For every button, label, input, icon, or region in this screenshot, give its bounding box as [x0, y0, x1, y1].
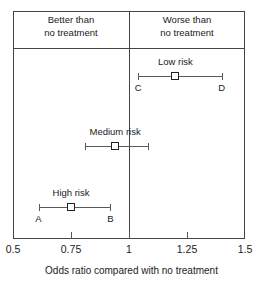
row-label-medium-risk: Medium risk: [89, 126, 140, 137]
ci-upper-endpoint-label: B: [107, 213, 113, 224]
ci-upper-endpoint-label: D: [218, 82, 225, 93]
x-axis-tick: [187, 232, 188, 239]
forest-plot-figure: Better than no treatment Worse than no t…: [0, 0, 263, 288]
ci-lower-cap: [138, 73, 139, 80]
x-axis-caption: Odds ratio compared with no treatment: [0, 265, 263, 276]
x-axis-tick-label: 1.5: [238, 243, 253, 255]
band-label-worse-line1: Worse than: [163, 14, 211, 25]
ci-lower-endpoint-label: A: [35, 213, 41, 224]
reference-line-or-1: [129, 11, 130, 239]
x-axis-tick-label: 1: [126, 243, 132, 255]
row-label-low-risk: Low risk: [158, 56, 193, 67]
x-axis-tick-label: 0.5: [6, 243, 21, 255]
band-label-worse-line2: no treatment: [129, 27, 245, 40]
band-label-better-line2: no treatment: [13, 27, 129, 40]
point-estimate-marker: [67, 203, 75, 211]
x-axis-tick-label: 1.25: [177, 243, 197, 255]
point-estimate-marker: [111, 142, 119, 150]
band-label-better-line1: Better than: [48, 14, 94, 25]
band-label-worse: Worse than no treatment: [129, 14, 245, 40]
ci-lower-cap: [85, 143, 86, 150]
row-label-high-risk: High risk: [53, 187, 90, 198]
confidence-interval-line: [138, 76, 222, 77]
ci-upper-cap: [222, 73, 223, 80]
x-axis-tick: [71, 232, 72, 239]
x-axis-tick: [129, 232, 130, 239]
x-axis-tick-label: 0.75: [61, 243, 81, 255]
band-label-better: Better than no treatment: [13, 14, 129, 40]
ci-lower-endpoint-label: C: [135, 82, 142, 93]
point-estimate-marker: [171, 72, 179, 80]
ci-upper-cap: [148, 143, 149, 150]
ci-upper-cap: [110, 204, 111, 211]
ci-lower-cap: [39, 204, 40, 211]
